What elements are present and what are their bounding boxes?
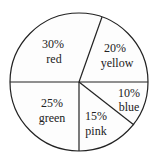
slice-yellow-label: yellow xyxy=(101,56,134,70)
slice-pink-percent: 15% xyxy=(85,109,107,123)
slice-blue-label: blue xyxy=(119,100,140,114)
slice-green-percent: 25% xyxy=(41,96,63,110)
slice-pink-label: pink xyxy=(85,124,106,138)
pie-chart: 30% red 20% yellow 10% blue 15% pink 25%… xyxy=(0,0,158,163)
slice-red-percent: 30% xyxy=(42,37,64,51)
slice-green-label: green xyxy=(39,111,66,125)
slice-red-label: red xyxy=(46,52,61,66)
slice-blue-percent: 10% xyxy=(118,86,140,100)
slice-yellow-percent: 20% xyxy=(104,41,126,55)
